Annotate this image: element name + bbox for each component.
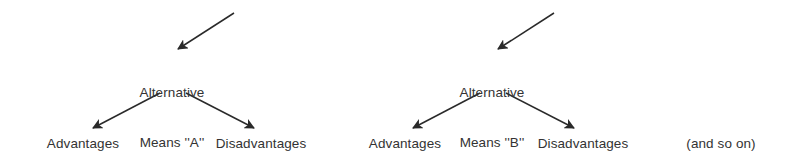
arrow-incoming-a (178, 13, 234, 49)
leaf-advantages-b: Advantages (369, 136, 441, 152)
node-a-line2: Means ''A'' (140, 135, 205, 152)
leaf-disadvantages-a: Disadvantages (216, 136, 307, 152)
arrow-incoming-b (498, 13, 554, 49)
node-alternative-means-a: Alternative Means ''A'' (140, 52, 205, 165)
leaf-disadvantages-b: Disadvantages (538, 136, 629, 152)
node-b-line2: Means ''B'' (460, 135, 525, 152)
node-alternative-means-b: Alternative Means ''B'' (460, 52, 525, 165)
node-b-line1: Alternative (460, 85, 525, 102)
leaf-advantages-a: Advantages (47, 136, 119, 152)
node-a-line1: Alternative (140, 85, 205, 102)
diagram-canvas: Alternative Means ''A'' Alternative Mean… (0, 0, 790, 165)
aside-and-so-on: (and so on) (686, 136, 755, 152)
